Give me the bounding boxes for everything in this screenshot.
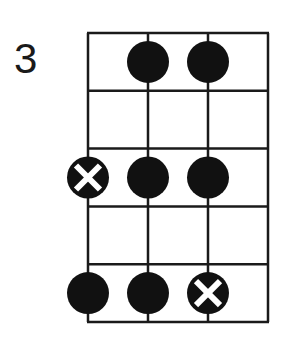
note-dot (127, 41, 169, 83)
root-note-x-icon (67, 157, 109, 199)
root-note-x-icon (187, 272, 229, 314)
note-dot (127, 272, 169, 314)
note-dot (127, 157, 169, 199)
note-dot (67, 272, 109, 314)
note-dot (187, 41, 229, 83)
fretboard-grid (0, 0, 288, 342)
note-dot (187, 157, 229, 199)
